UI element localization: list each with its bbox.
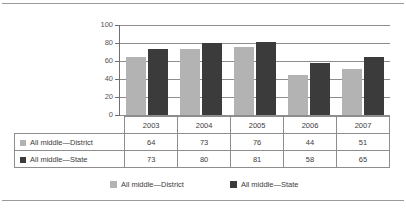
bar-chart-figure: 020406080100 20032004200520062007All mid… — [0, 0, 406, 210]
y-tick-label-20: 20 — [79, 93, 113, 101]
table-cell-district-2006: 44 — [284, 134, 337, 151]
table-cell-district-2004: 73 — [178, 134, 231, 151]
bar-2004-state — [202, 43, 222, 115]
table-row-label: All middle—District — [15, 134, 125, 151]
bar-2003-state — [148, 49, 168, 115]
bar-2004-district — [180, 49, 200, 115]
legend-swatch-district-icon — [110, 181, 117, 188]
bar-2006-state — [310, 63, 330, 115]
legend-entry-label: All middle—State — [241, 180, 299, 189]
figure-bottom-rule — [2, 200, 404, 201]
bar-group-2007 — [336, 25, 390, 115]
table-corner-cell — [15, 117, 125, 134]
y-tick-label-100: 100 — [79, 21, 113, 29]
bar-2005-district — [234, 47, 254, 115]
table-row-label-text: All middle—District — [30, 138, 93, 147]
plot-area — [120, 25, 390, 115]
table-header-row: 20032004200520062007 — [15, 117, 390, 134]
y-tick-label-80: 80 — [79, 39, 113, 47]
y-tick-label-60: 60 — [79, 57, 113, 65]
table-cell-state-2006: 58 — [284, 151, 337, 168]
table-cell-state-2003: 73 — [125, 151, 178, 168]
legend-entry-label: All middle—District — [121, 180, 184, 189]
table-year-header-2007: 2007 — [337, 117, 390, 134]
bar-2005-state — [256, 42, 276, 115]
table-cell-district-2005: 76 — [231, 134, 284, 151]
table-row: All middle—State7380815865 — [15, 151, 390, 168]
figure-top-rule — [2, 3, 404, 4]
chart-legend: All middle—DistrictAll middle—State — [110, 180, 360, 189]
bar-2007-district — [342, 69, 362, 115]
table-year-header-2004: 2004 — [178, 117, 231, 134]
data-table: 20032004200520062007All middle—District6… — [14, 116, 390, 168]
table-cell-district-2003: 64 — [125, 134, 178, 151]
table-row-label: All middle—State — [15, 151, 125, 168]
table-year-header-2006: 2006 — [284, 117, 337, 134]
bar-2003-district — [126, 57, 146, 115]
y-tick-label-40: 40 — [79, 75, 113, 83]
table-cell-district-2007: 51 — [337, 134, 390, 151]
series-swatch-state-icon — [20, 157, 26, 163]
legend-entry-district: All middle—District — [110, 180, 184, 189]
table-cell-state-2004: 80 — [178, 151, 231, 168]
bar-group-2003 — [120, 25, 174, 115]
bar-group-2005 — [228, 25, 282, 115]
legend-swatch-state-icon — [230, 181, 237, 188]
series-swatch-district-icon — [20, 140, 26, 146]
table-row: All middle—District6473764451 — [15, 134, 390, 151]
bar-2006-district — [288, 75, 308, 115]
bar-group-2006 — [282, 25, 336, 115]
table-cell-state-2007: 65 — [337, 151, 390, 168]
table-row-label-text: All middle—State — [30, 155, 88, 164]
table-cell-state-2005: 81 — [231, 151, 284, 168]
legend-entry-state: All middle—State — [230, 180, 299, 189]
table-year-header-2005: 2005 — [231, 117, 284, 134]
bar-2007-state — [364, 57, 384, 116]
table-year-header-2003: 2003 — [125, 117, 178, 134]
bar-group-2004 — [174, 25, 228, 115]
